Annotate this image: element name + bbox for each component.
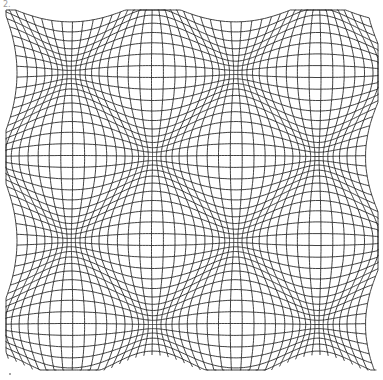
- grid-line: [10, 95, 378, 120]
- grid-line: [16, 247, 378, 257]
- grid-line: [71, 22, 72, 370]
- grid-line: [219, 21, 230, 370]
- grid-line: [238, 22, 242, 370]
- grid-line: [297, 10, 310, 357]
- grid-line: [6, 176, 372, 200]
- grid-line: [253, 17, 276, 370]
- grid-line: [14, 211, 378, 229]
- grid-line: [128, 10, 144, 358]
- grid-line: [61, 22, 67, 370]
- grid-line: [152, 10, 153, 355]
- grid-line: [6, 312, 366, 321]
- grid-line: [6, 156, 366, 157]
- grid-line: [207, 19, 225, 370]
- grid-line: [230, 22, 233, 370]
- grid-lines: [6, 10, 378, 370]
- grid-line: [6, 144, 366, 153]
- grid-line: [16, 79, 378, 89]
- grid-line: [6, 329, 366, 336]
- grid-line: [328, 10, 344, 358]
- grid-line: [6, 324, 366, 325]
- grid-line: [10, 23, 378, 49]
- grid-line: [38, 19, 58, 371]
- grid-line: [14, 43, 378, 61]
- grid-line: [6, 161, 366, 168]
- warped-grid-illusion: [0, 0, 383, 380]
- grid-line: [10, 191, 378, 217]
- grid-line: [319, 10, 321, 355]
- grid-line: [10, 263, 378, 288]
- grid-line: [197, 17, 220, 370]
- grid-line: [6, 344, 372, 368]
- grid-line: [276, 10, 300, 363]
- grid-line: [247, 19, 265, 370]
